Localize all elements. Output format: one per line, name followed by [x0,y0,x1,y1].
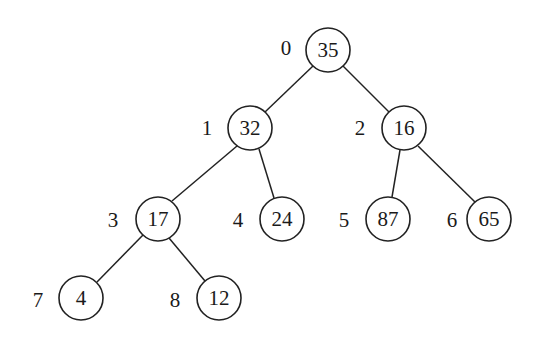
node-index-label: 2 [355,116,366,140]
node-value: 12 [209,286,230,310]
node-value: 24 [272,207,294,231]
node-value: 17 [148,207,169,231]
edge-2-6 [418,146,475,202]
node-value: 4 [76,286,87,310]
tree-node: 8 12 [170,276,241,320]
edge-1-3 [172,146,237,201]
node-index-label: 5 [339,208,350,232]
tree-node: 3 17 [108,197,180,241]
edge-0-1 [265,66,313,112]
node-index-label: 8 [170,288,181,312]
edge-3-8 [169,238,205,281]
node-index-label: 3 [108,208,119,232]
node-index-label: 6 [447,208,458,232]
tree-node: 6 65 [447,197,511,241]
node-index-label: 7 [33,288,44,312]
node-value: 16 [394,116,415,140]
tree-node: 5 87 [339,197,410,241]
node-value: 35 [318,38,339,62]
node-value: 87 [378,207,399,231]
node-index-label: 0 [281,36,292,60]
edge-0-2 [343,66,389,112]
edge-1-4 [259,149,274,198]
tree-node: 7 4 [33,276,103,320]
tree-node: 4 24 [233,197,304,241]
node-index-label: 1 [202,116,213,140]
tree-node: 2 16 [355,106,426,150]
node-value: 32 [240,116,261,140]
tree-node: 1 32 [202,106,272,150]
binary-tree-diagram: 0 35 1 32 2 16 3 17 4 24 5 87 6 65 7 [0,0,550,344]
edge-3-7 [97,235,143,282]
node-value: 65 [479,207,500,231]
edges [97,66,475,282]
tree-node: 0 35 [281,28,350,72]
node-index-label: 4 [233,208,244,232]
edge-2-5 [392,150,400,197]
